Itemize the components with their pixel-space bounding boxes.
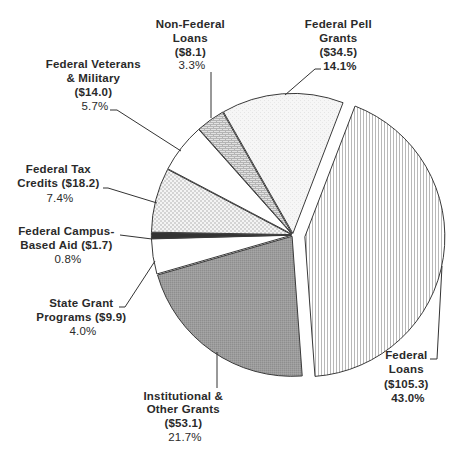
label-federal-campus-based-aid: Federal Campus- Based Aid ($1.7) 0.8% bbox=[18, 225, 118, 265]
label-federal-tax-credits: Federal Tax Credits ($18.2) 7.4% bbox=[17, 163, 103, 204]
label-non-federal-loans: Non-Federal Loans ($8.1) 3.3% bbox=[156, 18, 229, 71]
pie-slices bbox=[151, 93, 444, 376]
label-federal-loans: Federal Loans ($105.3) 43.0% bbox=[384, 349, 432, 404]
label-federal-veterans-military: Federal Veterans & Military ($14.0) 5.7% bbox=[46, 58, 145, 112]
label-institutional-other-grants: Institutional & Other Grants ($53.1) 21.… bbox=[143, 390, 226, 443]
label-state-grant-programs: State Grant Programs ($9.9) 4.0% bbox=[36, 297, 129, 337]
label-federal-pell-grants: Federal Pell Grants ($34.5) 14.1% bbox=[305, 18, 375, 72]
leader-line-veterans bbox=[110, 110, 181, 151]
leader-line-state-grant bbox=[119, 261, 155, 307]
leader-line-tax-credits bbox=[103, 188, 157, 203]
pie-chart: Federal Loans ($105.3) 43.0% Institution… bbox=[0, 0, 458, 458]
leader-line-campus-based bbox=[120, 235, 152, 239]
leader-line-pell bbox=[285, 69, 321, 95]
